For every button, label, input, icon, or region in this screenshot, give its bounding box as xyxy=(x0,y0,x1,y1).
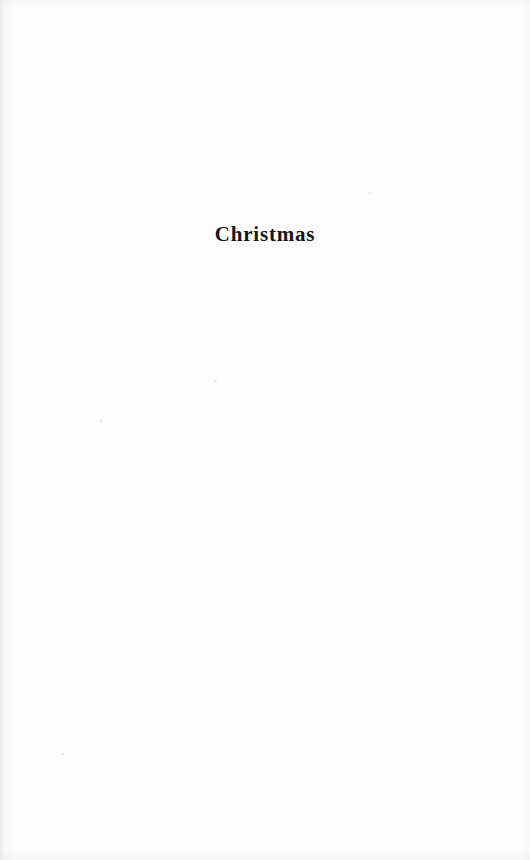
paper-background xyxy=(0,0,530,860)
scanned-page: Christmas xyxy=(0,0,530,860)
page-title: Christmas xyxy=(215,224,316,245)
